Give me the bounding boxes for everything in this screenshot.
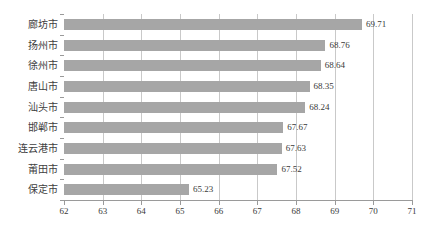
category-axis-label: 廊坊市: [0, 19, 58, 30]
x-axis-tick: [257, 201, 258, 205]
bar-value-label: 69.71: [366, 19, 386, 30]
y-axis-tick: [60, 117, 64, 118]
bar-value-label: 68.24: [309, 102, 329, 113]
bar: [64, 19, 362, 30]
bar-value-label: 65.23: [193, 184, 213, 195]
x-axis-tick-label: 62: [60, 206, 69, 217]
category-axis-label: 莆田市: [0, 164, 58, 175]
y-axis-tick: [60, 138, 64, 139]
bar: [64, 122, 283, 133]
bar: [64, 184, 189, 195]
x-axis-tick-label: 63: [98, 206, 107, 217]
category-axis-label: 汕头市: [0, 102, 58, 113]
bar: [64, 40, 325, 51]
category-axis-label: 徐州市: [0, 60, 58, 71]
x-axis-tick-label: 71: [408, 206, 417, 217]
plot-area: [64, 14, 412, 200]
y-axis-tick: [60, 76, 64, 77]
x-axis-tick: [412, 201, 413, 205]
x-axis-tick: [296, 201, 297, 205]
gridline: [412, 14, 413, 200]
y-axis-tick: [60, 55, 64, 56]
x-axis-tick: [141, 201, 142, 205]
x-axis-tick: [219, 201, 220, 205]
y-axis-tick: [60, 14, 64, 15]
x-axis-tick: [373, 201, 374, 205]
bar-value-label: 67.67: [287, 122, 307, 133]
category-axis: 廊坊市扬州市徐州市唐山市汕头市邯郸市连云港市莆田市保定市: [0, 14, 64, 200]
x-axis-tick-label: 67: [253, 206, 262, 217]
bar: [64, 164, 277, 175]
x-axis-line: [64, 200, 413, 201]
x-axis-tick-label: 65: [176, 206, 185, 217]
category-axis-label: 唐山市: [0, 81, 58, 92]
y-axis-tick: [60, 35, 64, 36]
bar-value-label: 68.64: [325, 60, 345, 71]
y-axis-tick: [60, 97, 64, 98]
x-axis-tick-label: 68: [292, 206, 301, 217]
y-axis-tick: [60, 200, 64, 201]
bar-value-label: 68.35: [314, 81, 334, 92]
gridline: [373, 14, 374, 200]
x-axis-tick-label: 69: [330, 206, 339, 217]
x-axis-tick: [103, 201, 104, 205]
category-axis-label: 扬州市: [0, 40, 58, 51]
category-axis-label: 保定市: [0, 184, 58, 195]
bar: [64, 60, 321, 71]
category-axis-label: 邯郸市: [0, 122, 58, 133]
bar: [64, 102, 305, 113]
bar-value-label: 67.63: [286, 143, 306, 154]
bar-value-label: 68.76: [329, 40, 349, 51]
y-axis-tick: [60, 179, 64, 180]
bar: [64, 143, 282, 154]
x-axis-tick: [335, 201, 336, 205]
category-axis-label: 连云港市: [0, 143, 58, 154]
horizontal-bar-chart: 廊坊市扬州市徐州市唐山市汕头市邯郸市连云港市莆田市保定市 62636465666…: [0, 0, 433, 240]
x-axis-tick-label: 70: [369, 206, 378, 217]
bar: [64, 81, 310, 92]
x-axis-tick-label: 64: [137, 206, 146, 217]
bar-value-label: 67.52: [281, 164, 301, 175]
y-axis-tick: [60, 159, 64, 160]
x-axis-tick-label: 66: [214, 206, 223, 217]
x-axis-tick: [180, 201, 181, 205]
x-axis-labels: 62636465666768697071: [0, 206, 433, 226]
x-axis-tick: [64, 201, 65, 205]
